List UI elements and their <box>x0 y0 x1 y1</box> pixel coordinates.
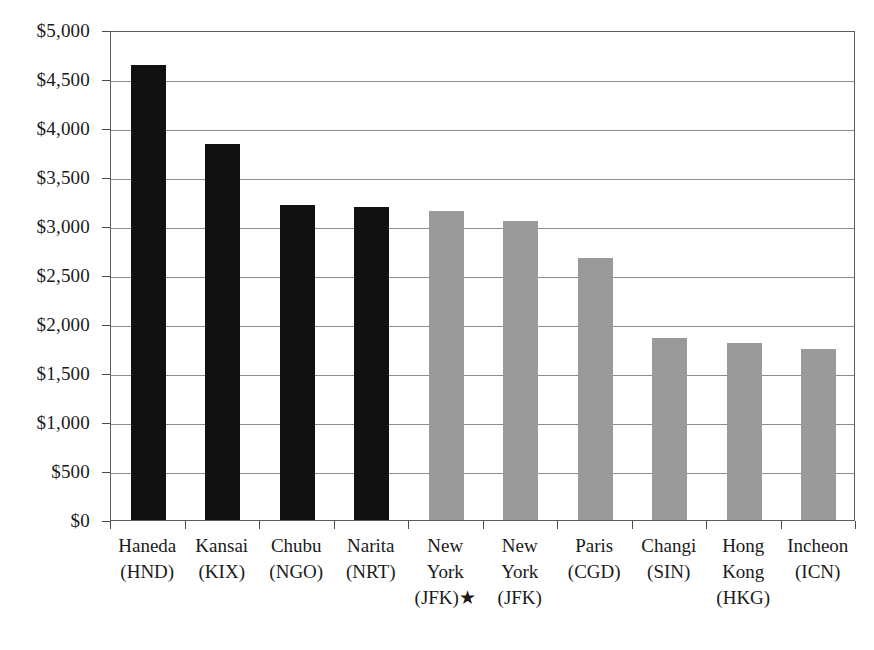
x-axis-tick-label: Paris(CGD) <box>557 533 632 585</box>
y-axis-tick-label: $1,000 <box>37 412 90 434</box>
y-axis-tick-mark <box>102 276 110 277</box>
x-axis-tick-label-line: (NRT) <box>334 559 409 585</box>
y-axis-tick-label: $4,000 <box>37 118 90 140</box>
y-axis-tick-label: $2,500 <box>37 265 90 287</box>
y-axis-tick-label: $1,500 <box>37 363 90 385</box>
bar <box>578 258 613 520</box>
x-axis-tick-label-line: New <box>408 533 483 559</box>
x-axis-tick-label-line: (ICN) <box>781 559 856 585</box>
y-axis-tick-mark <box>102 178 110 179</box>
x-axis-tick-label-line: Paris <box>557 533 632 559</box>
x-axis-tick-label-line: York <box>408 559 483 585</box>
y-axis-tick-label: $5,000 <box>37 20 90 42</box>
x-axis-tick-label-line: (SIN) <box>632 559 707 585</box>
plot-area <box>110 31 855 521</box>
y-axis-tick-label: $4,500 <box>37 69 90 91</box>
x-axis-tick-label-line: Kong <box>706 559 781 585</box>
x-axis-tick-label-line: Kansai <box>185 533 260 559</box>
x-axis-tick-label-line: (JFK) <box>483 585 558 611</box>
x-axis-tick-label-line: (JFK)★ <box>408 585 483 611</box>
x-axis-tick-mark <box>259 521 260 529</box>
x-axis-tick-mark <box>855 521 856 529</box>
y-axis: $0$500$1,000$1,500$2,000$2,500$3,000$3,5… <box>0 0 110 560</box>
y-axis-tick-mark <box>102 227 110 228</box>
y-axis-tick-label: $2,000 <box>37 314 90 336</box>
y-axis-tick-label: $500 <box>51 461 90 483</box>
bar <box>652 338 687 520</box>
x-axis-tick-mark <box>408 521 409 529</box>
y-axis-tick-label: $0 <box>71 510 90 532</box>
x-axis-tick-label-line: (CGD) <box>557 559 632 585</box>
x-axis-tick-mark <box>110 521 111 529</box>
x-axis-tick-label: Changi(SIN) <box>632 533 707 585</box>
x-axis-tick-label: NewYork(JFK)★ <box>408 533 483 611</box>
x-axis-tick-mark <box>781 521 782 529</box>
bar <box>280 205 315 520</box>
x-axis-tick-label: Chubu(NGO) <box>259 533 334 585</box>
x-axis-tick-mark <box>483 521 484 529</box>
x-axis-tick-label: HongKong(HKG) <box>706 533 781 611</box>
x-axis-tick-label: Narita(NRT) <box>334 533 409 585</box>
gridline <box>111 81 854 82</box>
bar <box>131 65 166 520</box>
x-axis-tick-label-line: (HND) <box>110 559 185 585</box>
x-axis-tick-label-line: (NGO) <box>259 559 334 585</box>
bar <box>354 207 389 520</box>
y-axis-tick-mark <box>102 423 110 424</box>
x-axis-tick-label-line: Narita <box>334 533 409 559</box>
x-axis-tick-label: Kansai(KIX) <box>185 533 260 585</box>
y-axis-tick-mark <box>102 80 110 81</box>
bar <box>429 211 464 520</box>
x-axis-tick-mark <box>185 521 186 529</box>
x-axis-tick-label: Incheon(ICN) <box>781 533 856 585</box>
x-axis-tick-label-line: (HKG) <box>706 585 781 611</box>
x-axis-tick-label-line: Chubu <box>259 533 334 559</box>
bar <box>503 221 538 520</box>
y-axis-tick-mark <box>102 374 110 375</box>
x-axis-tick-label-line: Incheon <box>781 533 856 559</box>
y-axis-tick-label: $3,500 <box>37 167 90 189</box>
bar <box>205 144 240 520</box>
x-axis-tick-label-line: Changi <box>632 533 707 559</box>
x-axis-tick-label-line: (KIX) <box>185 559 260 585</box>
y-axis-tick-mark <box>102 521 110 522</box>
x-axis-tick-mark <box>706 521 707 529</box>
y-axis-tick-label: $3,000 <box>37 216 90 238</box>
x-axis-tick-label-line: York <box>483 559 558 585</box>
y-axis-tick-mark <box>102 472 110 473</box>
x-axis-tick-mark <box>334 521 335 529</box>
x-axis-tick-mark <box>632 521 633 529</box>
x-axis-tick-label: NewYork(JFK) <box>483 533 558 611</box>
x-axis-tick-label-line: Hong <box>706 533 781 559</box>
x-axis-tick-label: Haneda(HND) <box>110 533 185 585</box>
bar <box>727 343 762 520</box>
y-axis-tick-mark <box>102 31 110 32</box>
y-axis-tick-mark <box>102 129 110 130</box>
x-axis-tick-label-line: Haneda <box>110 533 185 559</box>
x-axis-tick-mark <box>557 521 558 529</box>
y-axis-tick-mark <box>102 325 110 326</box>
bar-chart: $0$500$1,000$1,500$2,000$2,500$3,000$3,5… <box>0 0 874 650</box>
bar <box>801 349 836 520</box>
x-axis-tick-label-line: New <box>483 533 558 559</box>
gridline <box>111 130 854 131</box>
